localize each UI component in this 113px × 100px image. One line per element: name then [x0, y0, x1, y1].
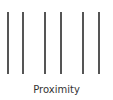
- vertical-line-1: [7, 12, 9, 74]
- vertical-line-4: [60, 12, 62, 74]
- vertical-line-5: [82, 12, 84, 74]
- vertical-line-3: [44, 12, 46, 74]
- vertical-line-6: [98, 12, 100, 74]
- vertical-line-2: [22, 12, 24, 74]
- diagram-label: Proximity: [0, 84, 113, 95]
